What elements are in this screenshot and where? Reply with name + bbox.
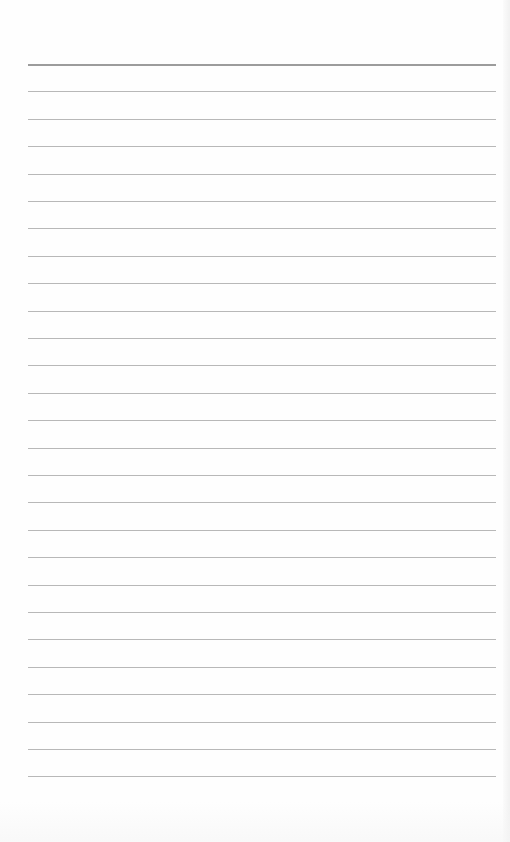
page-bottom-shade — [0, 802, 510, 842]
rule-line — [28, 174, 496, 175]
rule-line — [28, 420, 496, 421]
rule-line — [28, 585, 496, 586]
rule-line — [28, 393, 496, 394]
rule-line — [28, 475, 496, 476]
rule-line — [28, 667, 496, 668]
page-edge-shadow — [503, 0, 510, 842]
rule-line — [28, 612, 496, 613]
rule-line — [28, 256, 496, 257]
rule-line — [28, 722, 496, 723]
rule-line — [28, 283, 496, 284]
rule-line — [28, 557, 496, 558]
rule-line — [28, 530, 496, 531]
rule-line — [28, 448, 496, 449]
rule-line — [28, 201, 496, 202]
rule-line — [28, 91, 496, 92]
rule-line — [28, 146, 496, 147]
rule-line — [28, 776, 496, 777]
rule-line — [28, 749, 496, 750]
rule-line — [28, 365, 496, 366]
header-rule-line — [28, 64, 496, 66]
rule-line — [28, 639, 496, 640]
rule-line — [28, 119, 496, 120]
notebook-page — [0, 0, 510, 842]
rule-line — [28, 338, 496, 339]
rule-line — [28, 311, 496, 312]
rule-line — [28, 502, 496, 503]
rule-line — [28, 694, 496, 695]
rule-line — [28, 228, 496, 229]
